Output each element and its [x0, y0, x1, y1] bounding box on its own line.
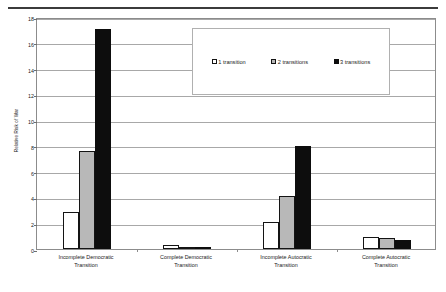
- y-axis-title: Relative Risk of War: [14, 71, 19, 191]
- y-tick-label: 10: [28, 119, 34, 125]
- x-axis-label: Complete DemocraticTransition: [136, 254, 236, 269]
- bar: [163, 245, 179, 249]
- bar: [279, 196, 295, 249]
- x-category-separator: [137, 249, 138, 252]
- y-tick-label: 18: [28, 16, 34, 22]
- bar: [363, 237, 379, 249]
- x-axis-label: Complete AutocraticTransition: [336, 254, 436, 269]
- y-tick-label: 16: [28, 42, 34, 48]
- y-tick-label: 4: [31, 196, 34, 202]
- x-axis-label: Incomplete AutocraticTransition: [236, 254, 336, 269]
- y-tick-mark: [34, 44, 37, 45]
- bar: [95, 29, 111, 249]
- y-tick-label: 12: [28, 93, 34, 99]
- y-tick-label: 0: [31, 248, 34, 254]
- legend-swatch-icon: [334, 59, 339, 64]
- y-tick-mark: [34, 96, 37, 97]
- bar: [63, 212, 79, 249]
- y-tick-mark: [34, 70, 37, 71]
- legend-label: 1 transition: [218, 59, 245, 65]
- y-tick-mark: [34, 147, 37, 148]
- y-tick-mark: [34, 19, 37, 20]
- legend-label: 3 transitions: [340, 59, 370, 65]
- chart-legend: 1 transition2 transitions3 transitions: [192, 28, 390, 95]
- x-axis-category-labels: Incomplete DemocraticTransitionComplete …: [36, 254, 436, 269]
- y-tick-mark: [34, 199, 37, 200]
- x-category-separator: [237, 249, 238, 252]
- bar: [179, 247, 195, 249]
- bar-chart-figure: Relative Risk of War 024681012141618 1 t…: [0, 0, 446, 292]
- bar: [263, 222, 279, 249]
- bar: [79, 151, 95, 249]
- x-category-separator: [337, 249, 338, 252]
- y-tick-label: 6: [31, 171, 34, 177]
- bar: [195, 247, 211, 249]
- bar: [395, 240, 411, 249]
- y-tick-mark: [34, 225, 37, 226]
- y-tick-mark: [34, 251, 37, 252]
- legend-label: 2 transitions: [278, 59, 308, 65]
- legend-swatch-icon: [212, 59, 217, 64]
- legend-item: 1 transition: [212, 59, 246, 65]
- bar: [379, 238, 395, 249]
- y-tick-mark: [34, 173, 37, 174]
- y-tick-mark: [34, 122, 37, 123]
- y-tick-label: 8: [31, 145, 34, 151]
- y-tick-label: 2: [31, 222, 34, 228]
- gridline: [37, 19, 435, 20]
- legend-item: 2 transitions: [271, 59, 308, 65]
- bar: [295, 146, 311, 249]
- x-axis-label: Incomplete DemocraticTransition: [36, 254, 136, 269]
- legend-item: 3 transitions: [334, 59, 371, 65]
- y-tick-label: 14: [28, 68, 34, 74]
- legend-swatch-icon: [271, 59, 276, 64]
- legend-items: 1 transition2 transitions3 transitions: [193, 59, 389, 65]
